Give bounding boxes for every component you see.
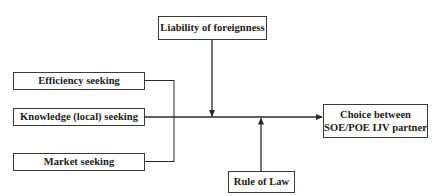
rule-of-law-label: Rule of Law — [234, 175, 289, 188]
efficiency-seeking-label: Efficiency seeking — [38, 74, 120, 87]
efficiency-seeking-box: Efficiency seeking — [13, 72, 145, 90]
knowledge-seeking-box: Knowledge (local) seeking — [13, 108, 145, 126]
liability-of-foreignness-label: Liability of foreignness — [160, 21, 264, 34]
liability-of-foreignness-box: Liability of foreignness — [158, 16, 267, 40]
choice-box: Choice between SOE/POE IJV partner — [323, 104, 428, 138]
choice-label-line1: Choice between — [340, 108, 411, 121]
choice-label-line2: SOE/POE IJV partner — [324, 121, 427, 134]
rule-of-law-box: Rule of Law — [228, 171, 295, 193]
market-seeking-box: Market seeking — [13, 153, 145, 171]
market-seeking-label: Market seeking — [44, 155, 114, 168]
knowledge-seeking-label: Knowledge (local) seeking — [20, 110, 138, 123]
conceptual-diagram: Liability of foreignness Efficiency seek… — [0, 0, 440, 196]
